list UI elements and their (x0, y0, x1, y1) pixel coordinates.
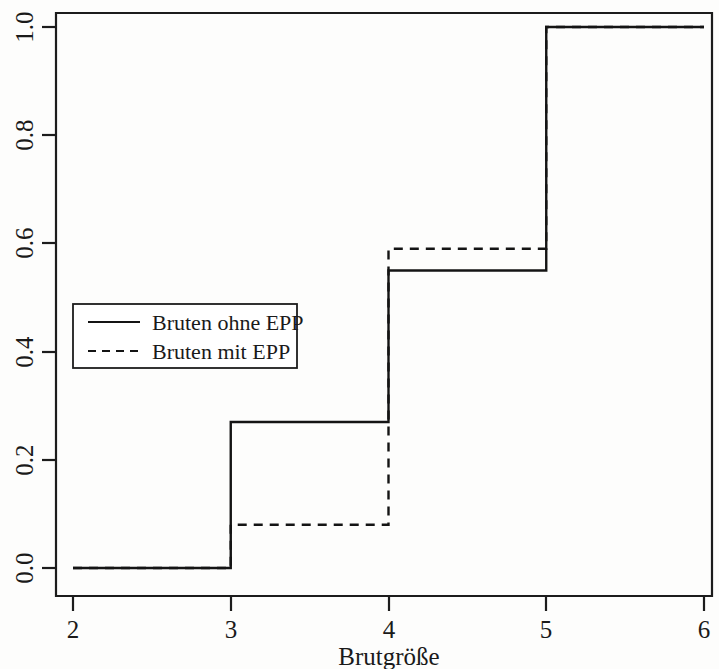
legend-label-bruten-mit-epp: Bruten mit EPP (152, 339, 290, 364)
x-tick-label-3: 3 (225, 616, 238, 643)
y-axis-ticks (42, 27, 56, 568)
y-tick-label-0-2: 0.2 (11, 444, 38, 475)
x-tick-label-2: 2 (67, 616, 80, 643)
y-tick-label-1-0: 1.0 (11, 11, 38, 42)
x-axis-tick-labels: 2 3 4 5 6 (67, 616, 711, 643)
y-tick-label-0-8: 0.8 (11, 119, 38, 150)
x-axis-ticks (73, 596, 704, 611)
y-axis-tick-labels: 1.0 0.8 0.6 0.4 0.2 0.0 (11, 11, 38, 583)
y-tick-label-0-6: 0.6 (11, 227, 38, 258)
x-tick-label-6: 6 (698, 616, 711, 643)
x-axis-title: Brutgröße (338, 643, 439, 669)
plot-canvas: 1.0 0.8 0.6 0.4 0.2 0.0 2 3 4 5 6 Brutgr… (0, 0, 719, 669)
data-series-group (73, 27, 704, 568)
x-tick-label-4: 4 (383, 616, 396, 643)
ecdf-chart-figure: 1.0 0.8 0.6 0.4 0.2 0.0 2 3 4 5 6 Brutgr… (0, 0, 719, 669)
series-line-bruten-ohne-epp (73, 27, 704, 568)
legend-label-bruten-ohne-epp: Bruten ohne EPP (152, 310, 304, 335)
y-tick-label-0-0: 0.0 (11, 552, 38, 583)
legend: Bruten ohne EPP Bruten mit EPP (73, 304, 304, 368)
x-tick-label-5: 5 (540, 616, 553, 643)
y-tick-label-0-4: 0.4 (11, 336, 38, 368)
